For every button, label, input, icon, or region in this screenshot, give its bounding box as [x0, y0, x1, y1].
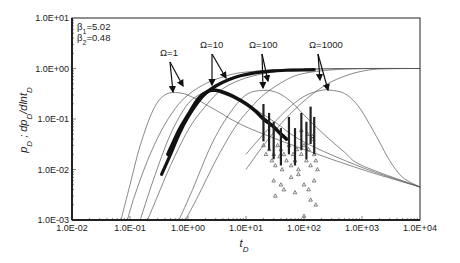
- triangle-marker: [285, 159, 289, 162]
- parameter-label: β2=0.48: [77, 32, 110, 46]
- model-curve: [121, 93, 420, 220]
- triangle-marker: [264, 152, 268, 155]
- y-axis-title: pD ; dpD/dlntD: [17, 87, 34, 154]
- omega-label: Ω=1000: [309, 39, 343, 50]
- triangle-marker: [293, 191, 297, 194]
- chart: 1.0E-021.0E-011.0E+001.0E+011.0E+021.0E+…: [0, 0, 460, 263]
- y-tick-label: 1.0E-02: [37, 165, 69, 175]
- model-curve: [148, 68, 421, 220]
- scatter-points: [262, 104, 320, 217]
- triangle-marker: [314, 203, 318, 206]
- triangle-marker: [297, 168, 301, 171]
- triangle-marker: [276, 143, 280, 146]
- triangle-marker: [289, 164, 293, 167]
- triangle-marker: [307, 188, 311, 191]
- triangle-marker: [300, 152, 304, 155]
- triangle-marker: [312, 179, 316, 182]
- plot-frame: [72, 18, 420, 220]
- omega-label: Ω=1: [160, 47, 178, 58]
- y-tick-label: 1.0E+01: [35, 13, 69, 23]
- triangle-marker: [302, 143, 306, 146]
- omega-label: Ω=100: [249, 39, 278, 50]
- x-tick-label: 1.0E+04: [403, 223, 437, 233]
- triangle-marker: [314, 159, 318, 162]
- x-tick-label: 1.0E+03: [345, 223, 379, 233]
- y-tick-label: 1.0E+00: [35, 64, 69, 74]
- model-curve: [246, 69, 420, 170]
- triangle-marker: [289, 175, 293, 178]
- axis-ticks: [72, 20, 417, 220]
- x-tick-label: 1.0E-01: [114, 223, 146, 233]
- model-curves: [121, 68, 420, 220]
- triangle-marker: [279, 183, 283, 186]
- arrow-icon: [212, 54, 226, 78]
- triangle-marker: [297, 172, 301, 175]
- triangle-marker: [316, 168, 320, 171]
- triangle-marker: [302, 183, 306, 186]
- x-tick-label: 1.0E+01: [229, 223, 263, 233]
- triangle-marker: [274, 194, 278, 197]
- x-tick-label: 1.0E+00: [171, 223, 205, 233]
- field-data-curves: [162, 70, 315, 175]
- x-tick-labels: 1.0E-021.0E-011.0E+001.0E+011.0E+021.0E+…: [56, 223, 437, 233]
- triangle-marker: [272, 179, 276, 182]
- triangle-marker: [282, 188, 286, 191]
- triangle-marker: [309, 198, 313, 201]
- model-curve: [246, 90, 420, 187]
- triangle-marker: [274, 164, 278, 167]
- y-tick-label: 1.0E-01: [37, 114, 69, 124]
- parameter-box: β1=5.02β2=0.48: [77, 21, 110, 46]
- triangle-marker: [280, 168, 284, 171]
- x-axis-title: tD: [240, 237, 249, 254]
- triangle-marker: [309, 164, 313, 167]
- omega-label: Ω=10: [200, 39, 223, 50]
- plot-border: [72, 18, 420, 220]
- omega-annotations: Ω=1Ω=10Ω=100Ω=1000: [160, 39, 343, 92]
- y-tick-label: 1.0E-03: [37, 215, 69, 225]
- x-tick-label: 1.0E+02: [287, 223, 321, 233]
- y-tick-labels: 1.0E+011.0E+001.0E-011.0E-021.0E-03: [35, 13, 69, 225]
- triangle-marker: [282, 152, 286, 155]
